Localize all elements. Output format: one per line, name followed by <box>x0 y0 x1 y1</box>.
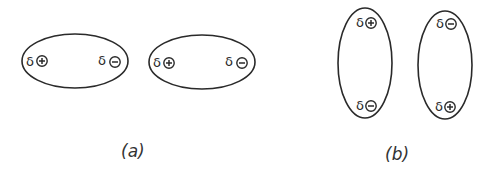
delta-label: δ <box>356 15 364 30</box>
molecule-outline <box>418 11 472 119</box>
positive-charge-icon <box>37 56 47 66</box>
positive-charge-icon <box>366 18 376 28</box>
delta-label: δ <box>436 16 444 31</box>
dipole-diagram: δ δ δ δ (a) δ δ δ δ <box>0 0 486 178</box>
delta-label: δ <box>356 98 364 113</box>
negative-charge-icon <box>446 19 456 29</box>
delta-label: δ <box>435 99 443 114</box>
molecule-outline <box>338 8 392 118</box>
negative-charge-icon <box>237 58 247 68</box>
panel-caption-b: (b) <box>385 144 409 164</box>
negative-charge-icon <box>110 57 120 67</box>
delta-label: δ <box>225 54 233 69</box>
positive-charge-icon <box>164 58 174 68</box>
dipole-molecule-a2: δ δ <box>149 35 255 89</box>
panel-a: δ δ δ δ (a) <box>22 34 255 161</box>
dipole-molecule-a1: δ δ <box>22 34 128 88</box>
dipole-molecule-b1: δ δ <box>338 8 392 118</box>
molecule-outline <box>22 34 128 88</box>
panel-caption-a: (a) <box>121 141 145 161</box>
molecule-outline <box>149 35 255 89</box>
positive-charge-icon <box>445 102 455 112</box>
negative-charge-icon <box>366 101 376 111</box>
delta-label: δ <box>153 55 161 70</box>
delta-label: δ <box>26 54 34 69</box>
dipole-molecule-b2: δ δ <box>418 11 472 119</box>
panel-b: δ δ δ δ (b) <box>338 8 472 164</box>
delta-label: δ <box>98 53 106 68</box>
